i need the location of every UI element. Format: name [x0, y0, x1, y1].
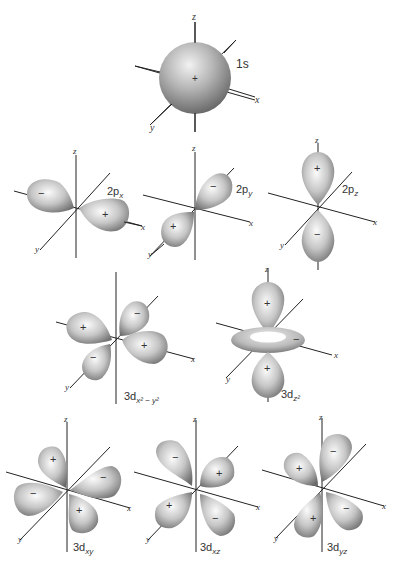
- sign: −: [293, 333, 299, 345]
- sign: −: [210, 180, 216, 192]
- sign: +: [102, 208, 108, 220]
- sign: +: [166, 499, 172, 511]
- sign: −: [100, 471, 106, 483]
- sign: −: [30, 487, 36, 499]
- axis-label-x: x: [254, 94, 260, 105]
- orbital-label: 1s: [236, 57, 249, 71]
- sign: −: [314, 228, 320, 240]
- axis-label-y: y: [273, 533, 278, 543]
- orbital-2py: − + 2py z x y: [143, 143, 253, 260]
- sign: +: [80, 321, 86, 333]
- lobe-negative: [294, 492, 322, 538]
- orbital-3dx2-y2: + − − + 3dx² − y² x y: [56, 272, 195, 405]
- lobe-negative: [70, 466, 121, 498]
- axis-label-x: x: [372, 217, 377, 227]
- axis-label-x: x: [126, 503, 131, 513]
- axis-label-y: y: [145, 534, 150, 544]
- orbital-label: 3dyz: [327, 541, 347, 556]
- orbital-label: 2pz: [342, 183, 358, 198]
- sign: −: [212, 512, 218, 524]
- orbital-3dxy: + − − + 3dxy z x y: [6, 414, 131, 556]
- orbital-1s: + 1s z x y: [135, 11, 260, 133]
- sign: −: [90, 351, 96, 363]
- axis-label-y: y: [149, 122, 155, 133]
- lobe-positive: [66, 312, 112, 344]
- axis-label-z: z: [191, 11, 196, 22]
- axis-label-y: y: [17, 534, 22, 544]
- axis-label-z: z: [264, 264, 269, 274]
- axis-label-x: x: [255, 502, 260, 512]
- axis-label-y: y: [225, 374, 230, 384]
- orbital-2pz: + − 2pz z x y: [268, 135, 377, 270]
- axis-label-y: y: [64, 382, 69, 392]
- orbital-label: 3dxz: [200, 541, 220, 556]
- sign: +: [170, 220, 176, 232]
- orbital-2px: − + 2px z x y: [14, 146, 145, 258]
- sign: +: [310, 512, 316, 524]
- lobe-positive: [161, 212, 194, 247]
- orbital-label: 2py: [236, 183, 253, 198]
- sign: +: [141, 339, 147, 351]
- orbital-diagram: + 1s z x y − + 2px z x y − + 2py: [0, 0, 406, 564]
- axis-label-z: z: [72, 146, 77, 156]
- lobe-negative: [319, 434, 352, 482]
- axis-label-z: z: [191, 143, 196, 153]
- orbital-label: 3dz²: [281, 388, 300, 403]
- sign: +: [216, 467, 222, 479]
- lobe-negative: [27, 179, 74, 212]
- sign: −: [134, 307, 140, 319]
- lobe-positive: [252, 352, 285, 398]
- sign: +: [50, 453, 56, 465]
- sign: −: [330, 445, 336, 457]
- axis-label-x: x: [333, 350, 338, 360]
- sign: +: [264, 362, 270, 374]
- sign: −: [343, 502, 349, 514]
- axis-label-x: x: [140, 222, 145, 232]
- orbital-label: 2px: [107, 185, 124, 200]
- sign: −: [38, 187, 44, 199]
- lobe-negative: [156, 440, 192, 486]
- sign: +: [192, 73, 198, 84]
- axis-label-z: z: [314, 135, 319, 145]
- lobe-positive: [155, 492, 192, 528]
- axis-label-z: z: [63, 414, 68, 424]
- orbital-3dz2: + − + 3dz² z x y: [216, 264, 338, 403]
- axis-label-x: x: [248, 218, 253, 228]
- sign: +: [76, 504, 82, 516]
- axis-label-y: y: [34, 244, 39, 254]
- axis-label-y: y: [279, 240, 284, 250]
- orbital-3dyz: − + + − 3dyz z x y: [262, 412, 386, 556]
- sign: −: [172, 451, 178, 463]
- axis-label-x: x: [381, 501, 386, 511]
- lobe-negative: [82, 344, 111, 380]
- lobe-positive: [69, 494, 99, 533]
- sign: +: [296, 462, 302, 474]
- axis-label-x: x: [190, 354, 195, 364]
- axis-label-y: y: [147, 249, 152, 259]
- orbital-3dxz: − + + − 3dxz z x y: [134, 414, 260, 556]
- orbital-label: 3dx² − y²: [124, 390, 159, 405]
- axis-label-z: z: [318, 412, 323, 422]
- sign: +: [264, 297, 270, 309]
- lobe-negative: [14, 483, 63, 516]
- sign: +: [314, 162, 320, 174]
- orbital-label: 3dxy: [73, 541, 94, 556]
- axis-label-z: z: [192, 414, 197, 424]
